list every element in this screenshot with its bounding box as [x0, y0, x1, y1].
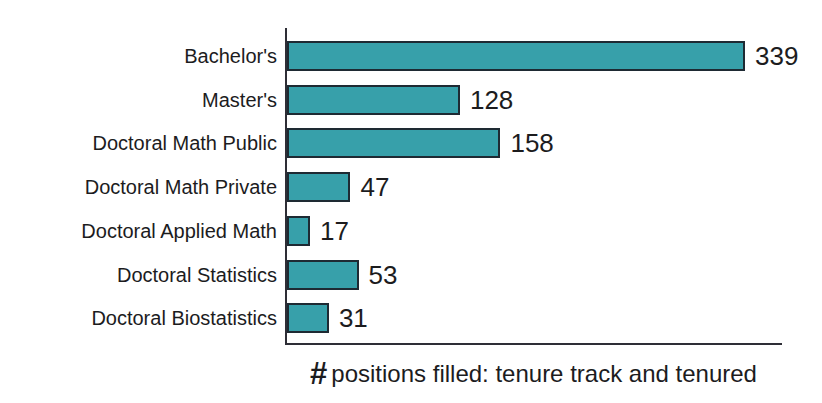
category-label: Doctoral Math Public: [0, 132, 277, 155]
category-label: Doctoral Math Private: [0, 176, 277, 199]
category-label: Doctoral Applied Math: [0, 219, 277, 242]
x-axis-title: #positions filled: tenure track and tenu…: [285, 356, 782, 392]
x-axis-line: [285, 343, 782, 345]
value-label: 31: [339, 303, 368, 334]
category-label: Doctoral Biostatistics: [0, 307, 277, 330]
bar: [287, 128, 500, 158]
category-label: Bachelor's: [0, 45, 277, 68]
value-label: 17: [320, 215, 349, 246]
value-label: 47: [360, 172, 389, 203]
hash-symbol: #: [310, 356, 327, 391]
value-label: 158: [510, 128, 553, 159]
bar: [287, 303, 329, 333]
bar: [287, 172, 350, 202]
category-label: Doctoral Statistics: [0, 263, 277, 286]
value-label: 53: [369, 259, 398, 290]
bar: [287, 85, 460, 115]
x-axis-title-text: positions filled: tenure track and tenur…: [331, 360, 757, 387]
bar: [287, 216, 310, 246]
bar: [287, 260, 359, 290]
bar: [287, 41, 745, 71]
category-label: Master's: [0, 88, 277, 111]
value-label: 339: [755, 41, 798, 72]
value-label: 128: [470, 84, 513, 115]
bar-chart-figure: Bachelor's339Master's128Doctoral Math Pu…: [0, 0, 822, 403]
